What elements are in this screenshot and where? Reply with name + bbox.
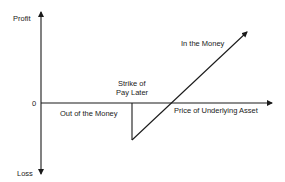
- out-of-money-label: Out of the Money: [60, 109, 118, 118]
- strike-label-line2: Pay Later: [116, 88, 148, 97]
- loss-label: Loss: [17, 169, 33, 178]
- origin-label: 0: [32, 99, 36, 108]
- in-the-money-label: In the Money: [181, 39, 224, 48]
- profit-label: Profit: [13, 14, 31, 23]
- strike-label-line1: Strike of: [118, 79, 146, 88]
- x-axis-label: Price of Underlying Asset: [174, 106, 258, 115]
- payoff-line: [132, 32, 247, 140]
